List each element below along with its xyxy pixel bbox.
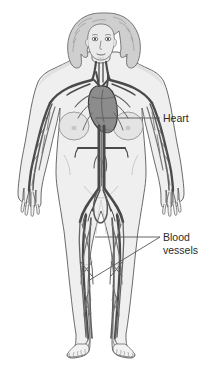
circulatory-system-illustration: Heart Blood vessels bbox=[0, 0, 209, 375]
feet-group bbox=[68, 344, 135, 357]
nipple-left bbox=[71, 126, 76, 130]
anatomy-figure: Heart Blood vessels bbox=[0, 0, 209, 375]
nipple-right bbox=[125, 126, 130, 130]
pupil-left bbox=[94, 38, 96, 40]
aorta-abdominal bbox=[99, 126, 104, 188]
pupil-right bbox=[107, 38, 109, 40]
head-group bbox=[68, 13, 141, 68]
blood-vessels-label-line2: vessels bbox=[163, 244, 198, 256]
label-blood-vessels[interactable]: Blood vessels bbox=[88, 231, 198, 281]
blood-vessels-label-line1: Blood bbox=[163, 231, 190, 243]
heart-label-text: Heart bbox=[163, 112, 189, 124]
superior-vena-cava bbox=[107, 73, 108, 87]
